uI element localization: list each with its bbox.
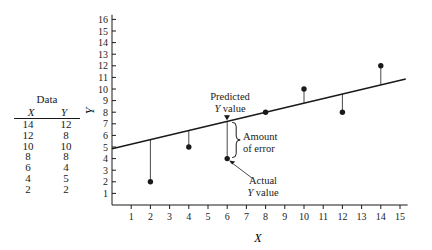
- x-tick-label: 6: [225, 211, 230, 222]
- arrow-head-icon: [224, 115, 230, 120]
- cell-y: 8: [52, 130, 80, 141]
- table-row: 22: [14, 184, 80, 195]
- table-row: 1010: [14, 141, 80, 152]
- x-tick-label: 14: [376, 211, 386, 222]
- error-brace: [232, 122, 240, 157]
- data-point: [263, 110, 268, 115]
- data-table-title: Data: [14, 93, 80, 105]
- y-tick-label: 12: [98, 60, 108, 71]
- x-tick-label: 1: [129, 211, 134, 222]
- x-tick-label: 10: [299, 211, 309, 222]
- x-tick-label: 5: [206, 211, 211, 222]
- y-tick-label: 3: [103, 165, 108, 176]
- header-x: X: [20, 106, 42, 118]
- y-tick-label: 1: [103, 188, 108, 199]
- data-point: [225, 156, 230, 161]
- error-label-line2: of error: [243, 143, 275, 154]
- y-tick-label: 11: [98, 72, 108, 83]
- x-tick-label: 2: [148, 211, 153, 222]
- annotations: PredictedY valueAmountof errorActualY va…: [210, 91, 279, 198]
- y-tick-label: 9: [103, 95, 108, 106]
- y-tick-label: 10: [98, 84, 108, 95]
- x-tick-label: 9: [282, 211, 287, 222]
- table-row: 64: [14, 162, 80, 173]
- y-tick-label: 6: [103, 130, 108, 141]
- data-points: [148, 63, 384, 184]
- y-tick-label: 16: [98, 14, 108, 25]
- predicted-label-line2: Y value: [214, 103, 246, 114]
- y-axis-label: Y: [83, 106, 97, 114]
- data-point: [378, 63, 383, 68]
- x-tick-label: 4: [186, 211, 191, 222]
- x-tick-label: 7: [244, 211, 249, 222]
- table-row: 128: [14, 130, 80, 141]
- x-tick-label: 8: [263, 211, 268, 222]
- y-tick-label: 15: [98, 26, 108, 37]
- x-tick-label: 15: [395, 211, 405, 222]
- cell-x: 12: [14, 130, 42, 141]
- y-tick-label: 2: [103, 176, 108, 187]
- actual-label: Actual: [249, 175, 277, 186]
- data-table: Data X Y 1412128101088644522: [14, 93, 80, 195]
- y-tick-label: 7: [103, 118, 108, 129]
- y-tick-label: 14: [98, 37, 108, 48]
- arrow-head-icon: [229, 161, 235, 165]
- x-tick-label: 12: [337, 211, 347, 222]
- actual-label-line2: Y value: [247, 187, 279, 198]
- error-label: Amount: [243, 131, 278, 142]
- header-y: Y: [53, 106, 75, 118]
- x-tick-label: 3: [167, 211, 172, 222]
- x-tick-label: 11: [318, 211, 328, 222]
- data-table-rows: 1412128101088644522: [14, 119, 80, 195]
- data-point: [301, 86, 306, 91]
- y-tick-label: 13: [98, 49, 108, 60]
- cell-x: 2: [14, 184, 42, 195]
- y-tick-label: 4: [103, 153, 108, 164]
- data-point: [148, 179, 153, 184]
- y-tick-label: 5: [103, 142, 108, 153]
- table-row: 88: [14, 151, 80, 162]
- y-tick-label: 8: [103, 107, 108, 118]
- table-row: 45: [14, 173, 80, 184]
- residual-lines: [150, 66, 380, 182]
- data-point: [186, 144, 191, 149]
- data-point: [340, 110, 345, 115]
- cell-y: 2: [52, 184, 80, 195]
- x-tick-label: 13: [357, 211, 367, 222]
- x-axis-label: X: [253, 231, 262, 245]
- predicted-label: Predicted: [210, 91, 250, 102]
